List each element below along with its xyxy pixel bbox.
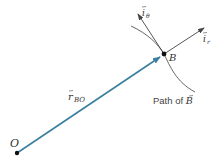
- unit-vector-theta-arrow: [138, 14, 164, 54]
- svg-text:r: r: [207, 38, 211, 45]
- unit-vector-r-arrow: [164, 28, 204, 54]
- origin-point: [15, 151, 19, 155]
- origin-label: O: [10, 137, 19, 150]
- path-of-b-curve: [131, 26, 195, 92]
- path-label: Path of B: [153, 95, 193, 106]
- point-b-label: B: [168, 52, 176, 63]
- unit-r-label: i r: [203, 33, 211, 46]
- unit-theta-label: i θ: [142, 7, 150, 20]
- svg-text:BO: BO: [73, 96, 85, 104]
- svg-text:i: i: [203, 34, 206, 44]
- kinematics-diagram: O B r BO i θ i r Path of B: [0, 0, 216, 159]
- point-b: [162, 52, 167, 57]
- position-vector-arrow: [17, 57, 160, 153]
- svg-text:i: i: [142, 8, 145, 18]
- svg-text:θ: θ: [146, 12, 150, 19]
- position-vector-label: r BO: [68, 91, 85, 105]
